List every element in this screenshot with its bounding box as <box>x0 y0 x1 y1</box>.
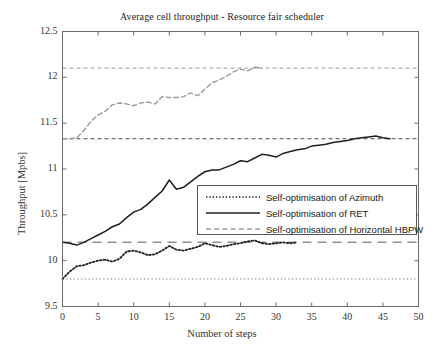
series-line-0 <box>63 241 298 280</box>
data-series-group <box>63 67 391 279</box>
legend-label-ret: Self-optimisation of RET <box>266 208 368 219</box>
x-tick-25: 25 <box>221 311 261 322</box>
x-tick-40: 40 <box>327 311 367 322</box>
series-line-2 <box>63 67 262 139</box>
y-axis-label: Throughput [Mpbs] <box>16 152 27 235</box>
y-tick-12.5: 12.5 <box>40 25 58 36</box>
legend-item-hbpw[interactable]: Self-optimisation of Horizontal HBPW <box>198 221 418 237</box>
x-axis-label: Number of steps <box>0 328 444 339</box>
chart-figure: Average cell throughput - Resource fair … <box>0 0 444 353</box>
reference-lines-group <box>63 68 419 279</box>
x-tick-20: 20 <box>185 311 225 322</box>
legend-label-hbpw: Self-optimisation of Horizontal HBPW <box>266 224 423 235</box>
chart-title: Average cell throughput - Resource fair … <box>0 11 444 22</box>
axes-group <box>63 32 419 307</box>
x-tick-30: 30 <box>256 311 296 322</box>
y-tick-11: 11 <box>48 162 58 173</box>
legend-item-azimuth[interactable]: Self-optimisation of Azimuth <box>198 189 418 205</box>
x-tick-50: 50 <box>399 311 439 322</box>
legend-swatch-hbpw <box>204 222 262 236</box>
legend-label-azimuth: Self-optimisation of Azimuth <box>266 192 383 203</box>
x-tick-5: 5 <box>78 311 118 322</box>
legend-swatch-ret <box>204 206 262 220</box>
x-tick-10: 10 <box>114 311 154 322</box>
y-tick-12: 12 <box>48 70 58 81</box>
legend-item-ret[interactable]: Self-optimisation of RET <box>198 205 418 221</box>
x-tick-0: 0 <box>43 311 83 322</box>
x-tick-35: 35 <box>292 311 332 322</box>
legend[interactable]: Self-optimisation of Azimuth Self-optimi… <box>197 185 417 235</box>
y-tick-10.5: 10.5 <box>40 208 58 219</box>
x-tick-15: 15 <box>149 311 189 322</box>
x-tick-45: 45 <box>363 311 403 322</box>
plot-canvas <box>0 0 444 353</box>
y-tick-9.5: 9.5 <box>45 300 58 311</box>
legend-swatch-azimuth <box>204 190 262 204</box>
y-tick-10: 10 <box>48 254 58 265</box>
y-tick-11.5: 11.5 <box>40 116 57 127</box>
